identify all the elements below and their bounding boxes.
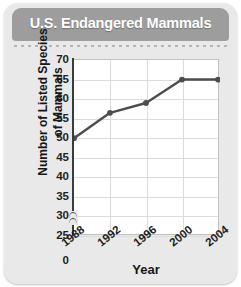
y-axis-line — [72, 58, 74, 236]
y-axis-title-line2: of Mammals — [51, 67, 66, 136]
y-tick-35: 35 — [41, 191, 69, 202]
data-point-2004 — [215, 77, 220, 83]
data-point-1996 — [143, 100, 149, 106]
y-tick-0: 0 — [41, 255, 69, 266]
y-axis-title-line1: Number of Listed Species — [36, 28, 51, 175]
y-axis-title: Number of Listed Speciesof Mammals — [34, 14, 68, 190]
y-axis-break-icon — [68, 211, 78, 225]
plot-area — [73, 59, 219, 235]
data-series-line — [74, 60, 220, 236]
x-axis-title: Year — [73, 262, 219, 277]
data-point-1992 — [107, 110, 113, 116]
y-tick-30: 30 — [41, 210, 69, 221]
data-point-2000 — [179, 77, 185, 83]
chart-card: U.S. Endangered Mammals 70 65 60 55 — [4, 3, 237, 284]
